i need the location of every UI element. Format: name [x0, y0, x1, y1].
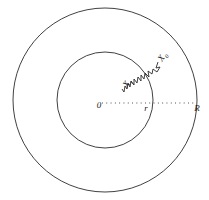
stop-point-label-group: X τ [120, 76, 135, 91]
origin-label: 0 [97, 100, 102, 110]
start-point-label-group: X 0 [155, 50, 170, 65]
inner-radius-label: r [144, 103, 148, 113]
stop-point-label: X [120, 78, 132, 89]
annulus-diagram: 0 r R X 0 X τ [0, 0, 209, 200]
inner-circle [57, 52, 153, 148]
figure-root: 0 r R X 0 X τ [0, 0, 209, 200]
outer-radius-label: R [193, 103, 200, 113]
outer-circle [13, 8, 197, 192]
